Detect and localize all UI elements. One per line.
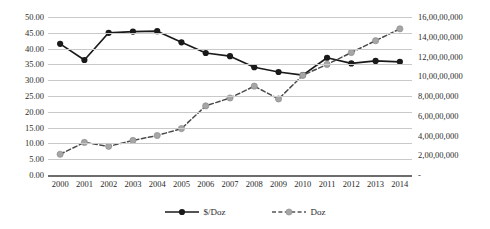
left-axis-tick-label: 35.00: [25, 60, 44, 69]
left-value-axis: 50.0045.0040.0035.0030.0025.0020.0015.00…: [0, 0, 44, 229]
data-point-marker: [57, 41, 63, 47]
category-tick-label: 2010: [294, 180, 311, 189]
chart-legend: $/Doz Doz: [0, 203, 490, 221]
data-point-marker: [227, 53, 233, 59]
category-tick-label: 2003: [124, 180, 141, 189]
left-axis-tick-label: 15.00: [25, 124, 44, 133]
legend-item-dollar-per-doz[interactable]: $/Doz: [165, 207, 226, 217]
category-tick-label: 2009: [270, 180, 287, 189]
category-tick-label: 2006: [197, 180, 214, 189]
data-point-marker: [203, 50, 209, 56]
data-point-marker: [203, 103, 209, 109]
gridline: [48, 143, 412, 144]
legend-swatch-dashed-line-icon: [272, 207, 306, 217]
category-tick-label: 2008: [246, 180, 263, 189]
data-point-marker: [57, 151, 63, 157]
gridline: [48, 80, 412, 81]
right-axis-tick-label: 16,00,00,000: [418, 13, 463, 22]
category-tick-label: 2004: [149, 180, 166, 189]
data-point-marker: [373, 38, 379, 44]
right-axis-tick-label: 4,00,00,000: [418, 132, 458, 141]
data-point-marker: [106, 143, 112, 149]
gridline: [48, 33, 412, 34]
category-tick-label: 2011: [319, 180, 336, 189]
data-point-marker: [178, 39, 184, 45]
right-value-axis: 16,00,00,00014,00,00,00012,00,00,00010,0…: [418, 0, 490, 229]
data-point-marker: [154, 132, 160, 138]
right-axis-tick-label: -: [418, 171, 421, 180]
data-point-marker: [300, 72, 306, 78]
legend-label: $/Doz: [204, 208, 226, 217]
right-axis-tick-label: 10,00,00,000: [418, 72, 463, 81]
right-axis-tick-label: 12,00,00,000: [418, 53, 463, 62]
data-point-marker: [251, 64, 257, 70]
category-tick-label: 2001: [76, 180, 93, 189]
gridline: [48, 96, 412, 97]
data-point-marker: [397, 26, 403, 32]
category-tick-label: 2007: [222, 180, 239, 189]
gridline: [48, 128, 412, 129]
gridline: [48, 112, 412, 113]
series-line-doz: [60, 29, 400, 154]
line-chart: 50.0045.0040.0035.0030.0025.0020.0015.00…: [0, 0, 490, 229]
gridline: [48, 49, 412, 50]
data-point-marker: [324, 55, 330, 61]
category-axis: 2000200120022003200420052006200720082009…: [48, 180, 412, 196]
category-tick-label: 2000: [52, 180, 69, 189]
category-tick-label: 2002: [100, 180, 117, 189]
right-axis-tick-label: 8,00,00,000: [418, 92, 458, 101]
right-axis-tick-label: 2,00,00,000: [418, 151, 458, 160]
gridline: [48, 17, 412, 18]
data-point-marker: [81, 57, 87, 63]
gridline: [48, 159, 412, 160]
data-point-marker: [348, 49, 354, 55]
category-tick-label: 2013: [367, 180, 384, 189]
gridline: [48, 64, 412, 65]
left-axis-tick-label: 0.00: [29, 171, 44, 180]
left-axis-tick-label: 10.00: [25, 139, 44, 148]
category-tick-label: 2012: [343, 180, 360, 189]
category-tick-label: 2014: [391, 180, 408, 189]
legend-label: Doz: [311, 208, 326, 217]
left-axis-tick-label: 50.00: [25, 13, 44, 22]
plot-area: [48, 17, 412, 175]
left-axis-tick-label: 5.00: [29, 155, 44, 164]
right-axis-tick-label: 14,00,00,000: [418, 33, 463, 42]
category-tick-label: 2005: [173, 180, 190, 189]
data-point-marker: [275, 69, 281, 75]
left-axis-tick-label: 20.00: [25, 108, 44, 117]
right-axis-tick-label: 6,00,00,000: [418, 112, 458, 121]
legend-swatch-solid-line-icon: [165, 207, 199, 217]
left-axis-tick-label: 25.00: [25, 92, 44, 101]
gridline: [48, 175, 412, 177]
left-axis-tick-label: 45.00: [25, 29, 44, 38]
left-axis-tick-label: 30.00: [25, 76, 44, 85]
legend-item-doz[interactable]: Doz: [272, 207, 326, 217]
data-point-marker: [251, 83, 257, 89]
left-axis-tick-label: 40.00: [25, 45, 44, 54]
